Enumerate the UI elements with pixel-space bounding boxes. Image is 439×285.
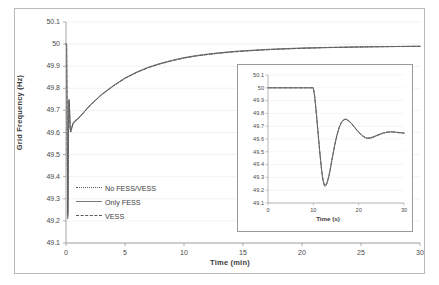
x-tick-label: 10 <box>172 249 196 256</box>
y-tick-label: 49.6 <box>32 129 60 136</box>
x-tick-label: 25 <box>349 249 373 256</box>
inset-series-curves <box>268 88 404 187</box>
y-tick-label: 49.9 <box>32 62 60 69</box>
inset-y-tick-label: 49.9 <box>244 97 264 103</box>
inset-y-tick-label: 49.5 <box>244 149 264 155</box>
inset-tickmarks <box>266 75 405 206</box>
y-tick-label: 50 <box>32 40 60 47</box>
inset-x-tick-label: 10 <box>305 207 321 213</box>
inset-chart: 49.149.249.349.449.549.649.749.849.95050… <box>237 64 413 232</box>
inset-y-tick-label: 49.7 <box>244 123 264 129</box>
inset-series-line-1 <box>268 88 404 185</box>
inset-y-tick-label: 49.6 <box>244 136 264 142</box>
x-axis-title: Time (min) <box>170 258 290 267</box>
legend-item: Only FESS <box>76 195 188 209</box>
y-tick-label: 49.2 <box>32 217 60 224</box>
inset-series-line-2 <box>268 88 404 186</box>
chart-legend: No FESS/VESSOnly FESSVESS <box>76 181 188 223</box>
y-tick-label: 49.5 <box>32 151 60 158</box>
legend-label: No FESS/VESS <box>105 184 156 193</box>
legend-line-icon <box>76 184 102 192</box>
y-tick-label: 49.1 <box>32 239 60 246</box>
y-tick-label: 49.7 <box>32 106 60 113</box>
inset-y-tick-label: 49.4 <box>244 161 264 167</box>
y-tick-label: 49.8 <box>32 84 60 91</box>
x-tick-label: 0 <box>54 249 78 256</box>
inset-y-tick-label: 49.3 <box>244 174 264 180</box>
inset-y-tick-label: 50 <box>244 85 264 91</box>
inset-x-axis-title: Time (s) <box>288 215 368 222</box>
x-tick-label: 5 <box>113 249 137 256</box>
y-tick-label: 50.1 <box>32 18 60 25</box>
x-tick-label: 15 <box>231 249 255 256</box>
legend-line-icon <box>76 212 102 220</box>
legend-item: VESS <box>76 209 188 223</box>
y-tick-label: 49.4 <box>32 173 60 180</box>
legend-label: VESS <box>105 212 124 221</box>
figure-root: 49.149.249.349.449.549.649.749.849.95050… <box>0 0 439 285</box>
legend-item: No FESS/VESS <box>76 181 188 195</box>
inset-y-tick-label: 49.2 <box>244 187 264 193</box>
inset-y-tick-label: 49.1 <box>244 200 264 206</box>
inset-y-tick-label: 49.8 <box>244 110 264 116</box>
x-tick-label: 20 <box>290 249 314 256</box>
y-tick-label: 49.3 <box>32 195 60 202</box>
legend-label: Only FESS <box>105 198 141 207</box>
inset-y-tick-label: 50.1 <box>244 72 264 78</box>
inset-x-tick-label: 0 <box>260 207 276 213</box>
inset-x-tick-label: 30 <box>396 207 412 213</box>
legend-line-icon <box>76 198 102 206</box>
inset-x-tick-label: 20 <box>351 207 367 213</box>
x-tick-label: 30 <box>408 249 432 256</box>
y-axis-title: Grid Frequency (Hz) <box>15 63 24 163</box>
